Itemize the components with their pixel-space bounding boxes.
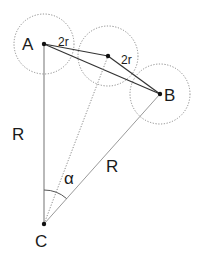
point-a xyxy=(42,42,46,46)
label-a: A xyxy=(22,35,34,54)
point-middle xyxy=(106,54,110,58)
label-alpha: α xyxy=(64,169,74,188)
dotted-c-to-middle xyxy=(44,56,108,224)
label-b: B xyxy=(164,86,175,105)
label-r-right: R xyxy=(106,157,118,176)
geometry-diagram: A B C R R α 2r 2r xyxy=(0,0,200,263)
label-2r-first: 2r xyxy=(58,35,69,49)
label-c: C xyxy=(35,232,47,251)
label-2r-second: 2r xyxy=(121,53,132,67)
label-r-left: R xyxy=(12,125,24,144)
radius-c-to-b xyxy=(44,94,160,224)
point-b xyxy=(158,92,162,96)
segment-a-to-middle xyxy=(44,44,108,56)
point-c xyxy=(42,222,46,226)
